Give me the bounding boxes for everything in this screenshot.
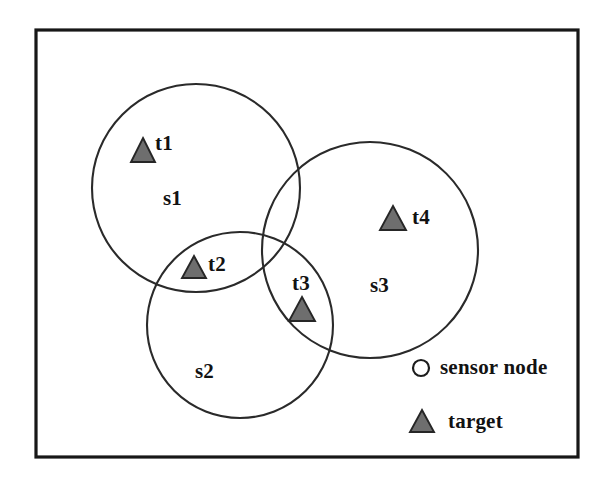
sensor-circle-s2	[147, 232, 333, 418]
target-label-t1: t1	[155, 133, 173, 154]
legend-target-icon	[410, 410, 434, 432]
target-marker-t4	[380, 206, 406, 230]
legend-sensor-node-label: sensor node	[440, 357, 547, 378]
outer-frame	[36, 30, 578, 457]
sensor-label-s2: s2	[195, 361, 214, 382]
legend-sensor-node-icon	[413, 360, 429, 376]
target-label-t2: t2	[208, 254, 226, 275]
sensor-label-s1: s1	[163, 188, 182, 209]
sensor-label-s3: s3	[370, 275, 389, 296]
diagram-canvas	[0, 0, 602, 484]
target-marker-t1	[131, 138, 155, 162]
target-marker-t2	[182, 256, 206, 278]
target-label-t4: t4	[412, 207, 430, 228]
target-marker-t3	[289, 297, 315, 321]
target-label-t3: t3	[292, 273, 310, 294]
legend-target-label: target	[448, 411, 503, 432]
sensor-coverage-diagram: t1 t2 t3 t4 s1 s2 s3 sensor node target	[0, 0, 602, 484]
